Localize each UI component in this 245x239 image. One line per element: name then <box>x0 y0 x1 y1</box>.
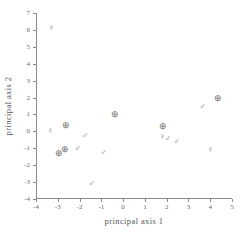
x-tick <box>80 199 81 202</box>
x-tick-label: 1 <box>143 203 147 211</box>
venus-symbol: ♀ <box>47 127 53 135</box>
plot-area: -4-3-2-1012345 -4-3-2-101234567 ♀♀♀♀♂♂♂♂… <box>36 13 232 199</box>
y-tick-label: -4 <box>24 195 30 203</box>
scatter-plot-figure: -4-3-2-1012345 -4-3-2-101234567 ♀♀♀♀♂♂♂♂… <box>0 0 245 239</box>
y-tick-label: 3 <box>27 77 31 85</box>
y-tick <box>33 64 36 65</box>
x-tick-label: -4 <box>33 203 39 211</box>
y-tick-label: 2 <box>27 94 31 102</box>
x-tick-label: 4 <box>208 203 212 211</box>
y-tick <box>33 131 36 132</box>
y-tick <box>33 98 36 99</box>
y-tick <box>33 13 36 14</box>
circled-cross-symbol: ⊕ <box>111 110 119 119</box>
venus-symbol: ♀ <box>207 146 213 154</box>
y-tick-label: 7 <box>27 9 31 17</box>
x-tick <box>36 199 37 202</box>
x-tick-label: 0 <box>121 203 125 211</box>
x-tick-label: 2 <box>165 203 169 211</box>
circled-cross-symbol: ⊕ <box>159 122 167 131</box>
y-tick <box>33 81 36 82</box>
y-tick <box>33 148 36 149</box>
mars-symbol: ♂ <box>173 138 179 146</box>
y-tick-label: 4 <box>27 60 31 68</box>
y-tick <box>33 114 36 115</box>
y-tick-label: -1 <box>24 144 30 152</box>
y-tick <box>33 165 36 166</box>
x-tick <box>232 199 233 202</box>
y-axis-title-text: principal axis 2 <box>3 77 13 136</box>
x-tick <box>123 199 124 202</box>
x-tick <box>188 199 189 202</box>
y-tick-label: 0 <box>27 127 31 135</box>
circled-cross-symbol: ⊕ <box>62 120 70 129</box>
x-tick <box>145 199 146 202</box>
y-tick <box>33 30 36 31</box>
y-tick <box>33 47 36 48</box>
mars-symbol: ♂ <box>200 103 206 111</box>
mars-symbol: ♂ <box>82 132 88 140</box>
mars-symbol: ♂ <box>74 145 80 153</box>
x-tick <box>210 199 211 202</box>
y-tick <box>33 182 36 183</box>
y-tick-label: 6 <box>27 26 31 34</box>
mars-symbol: ♂ <box>101 149 107 157</box>
x-tick-label: -1 <box>98 203 104 211</box>
circled-cross-symbol: ⊕ <box>214 93 222 102</box>
circled-cross-symbol: ⊕ <box>61 145 69 154</box>
y-tick-label: -2 <box>24 161 30 169</box>
y-tick-label: -3 <box>24 178 30 186</box>
y-tick-label: 5 <box>27 43 31 51</box>
x-tick-label: 3 <box>187 203 191 211</box>
mars-symbol: ♂ <box>165 135 171 143</box>
x-axis-title: principal axis 1 <box>36 216 232 226</box>
x-tick-label: 5 <box>230 203 234 211</box>
x-tick <box>101 199 102 202</box>
y-tick-label: 1 <box>27 110 31 118</box>
y-axis-line <box>36 13 37 199</box>
venus-symbol: ♀ <box>48 24 54 32</box>
x-tick-label: -3 <box>55 203 61 211</box>
y-tick <box>33 199 36 200</box>
x-tick-label: -2 <box>77 203 83 211</box>
x-axis-line <box>36 198 232 199</box>
x-tick <box>167 199 168 202</box>
mars-symbol: ♂ <box>89 180 95 188</box>
y-axis-title: principal axis 2 <box>2 13 14 199</box>
x-tick <box>58 199 59 202</box>
